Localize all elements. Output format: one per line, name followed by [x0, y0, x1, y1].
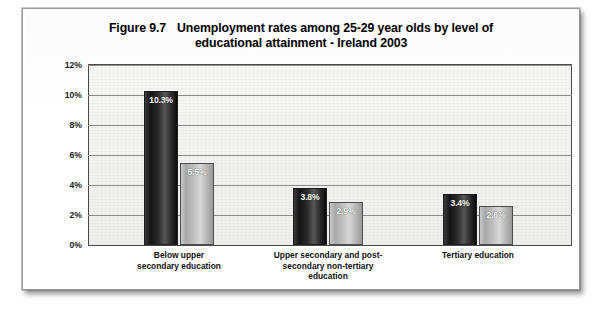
chart-title-text-1: Unemployment rates among 25-29 year olds…	[177, 21, 493, 35]
y-axis-tick-label: 4%	[70, 180, 82, 190]
bar-value-label: 5.5%	[181, 167, 213, 177]
category-label-line: Upper secondary and post-	[243, 250, 413, 261]
bar-female[interactable]: 2.9%	[329, 202, 363, 246]
bar-female[interactable]: 2.6%	[479, 206, 513, 245]
x-axis-category-label: Upper secondary and post-secondary non-t…	[243, 250, 413, 282]
y-axis-tick-label: 8%	[70, 120, 82, 130]
chart-title-line-2: educational attainment - Ireland 2003	[26, 36, 576, 51]
category-label-line: secondary education	[104, 261, 254, 272]
y-axis-tick-label: 6%	[70, 150, 82, 160]
y-axis-tick-label: 10%	[65, 90, 82, 100]
category-label-line: Below upper	[104, 250, 254, 261]
bar-male[interactable]: 3.4%	[443, 194, 477, 245]
chart-title: Figure 9.7Unemployment rates among 25-29…	[26, 21, 576, 51]
bar-value-label: 3.8%	[294, 192, 326, 202]
y-axis-tick-label: 0%	[70, 240, 82, 250]
gridline	[88, 65, 572, 66]
bar-value-label: 3.4%	[444, 198, 476, 208]
y-axis-tick-label: 2%	[70, 210, 82, 220]
category-label-line: education	[243, 271, 413, 282]
chart-title-line-1: Figure 9.7Unemployment rates among 25-29…	[26, 21, 576, 36]
bar-female[interactable]: 5.5%	[180, 163, 214, 246]
bar-value-label: 2.6%	[480, 210, 512, 220]
figure-number: Figure 9.7	[109, 21, 166, 35]
bar-value-label: 2.9%	[330, 206, 362, 216]
bar-male[interactable]: 10.3%	[144, 91, 178, 246]
category-label-line: Tertiary education	[403, 250, 553, 261]
bar-value-label: 10.3%	[145, 95, 177, 105]
plot-wrap: 0%2%4%6%8%10%12% 10.3%5.5%3.8%2.9%3.4%2.…	[88, 64, 572, 246]
category-label-line: secondary non-tertiary	[243, 261, 413, 272]
x-axis-category-label: Below uppersecondary education	[104, 250, 254, 271]
x-axis-category-label: Tertiary education	[403, 250, 553, 261]
figure-inner: Figure 9.7Unemployment rates among 25-29…	[26, 12, 576, 286]
figure-panel: Figure 9.7Unemployment rates among 25-29…	[22, 8, 580, 290]
bar-male[interactable]: 3.8%	[293, 188, 327, 245]
y-axis-tick-label: 12%	[65, 60, 82, 70]
